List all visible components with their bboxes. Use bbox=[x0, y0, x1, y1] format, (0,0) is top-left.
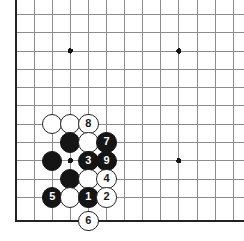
stone-move-number: 6 bbox=[85, 215, 91, 226]
stone-white-move-2: 2 bbox=[96, 187, 116, 207]
stone-layer: 873945126 bbox=[0, 0, 244, 241]
stone-move-number: 4 bbox=[103, 173, 109, 184]
stone-black-b-b bbox=[42, 151, 62, 171]
stone-move-number: 2 bbox=[103, 191, 109, 202]
stone-move-number: 5 bbox=[49, 191, 55, 202]
stone-move-number: 1 bbox=[85, 191, 91, 202]
stone-white-move-6: 6 bbox=[78, 211, 98, 231]
stone-move-number: 3 bbox=[85, 155, 91, 166]
stone-move-number: 7 bbox=[103, 136, 109, 147]
stone-black-move-7: 7 bbox=[96, 132, 116, 152]
stone-move-number: 8 bbox=[85, 118, 91, 129]
go-board-diagram: 873945126 bbox=[0, 0, 244, 241]
stone-black-move-9: 9 bbox=[96, 151, 116, 171]
stone-move-number: 9 bbox=[103, 155, 109, 166]
